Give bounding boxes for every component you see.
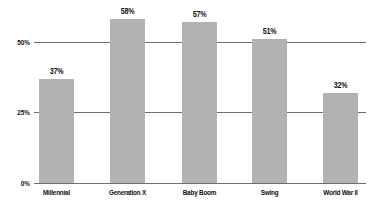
- category-label: World War II: [307, 188, 373, 197]
- category-label: Millennial: [23, 188, 89, 197]
- plot-area: [34, 8, 366, 183]
- bar[interactable]: [39, 79, 74, 183]
- bar[interactable]: [323, 93, 358, 183]
- axis-baseline: [34, 183, 366, 184]
- y-axis-tick-label: 25%: [6, 108, 30, 117]
- category-label: Swing: [236, 188, 302, 197]
- bar[interactable]: [252, 39, 287, 183]
- bar[interactable]: [110, 19, 145, 183]
- bar[interactable]: [182, 22, 217, 183]
- y-axis-tick-label: 0%: [6, 179, 30, 188]
- y-axis-tick-label: 50%: [6, 38, 30, 47]
- bar-chart: 37%Millennial58%Generation X57%Baby Boom…: [0, 0, 384, 215]
- category-label: Generation X: [94, 188, 160, 197]
- category-label: Baby Boom: [166, 188, 232, 197]
